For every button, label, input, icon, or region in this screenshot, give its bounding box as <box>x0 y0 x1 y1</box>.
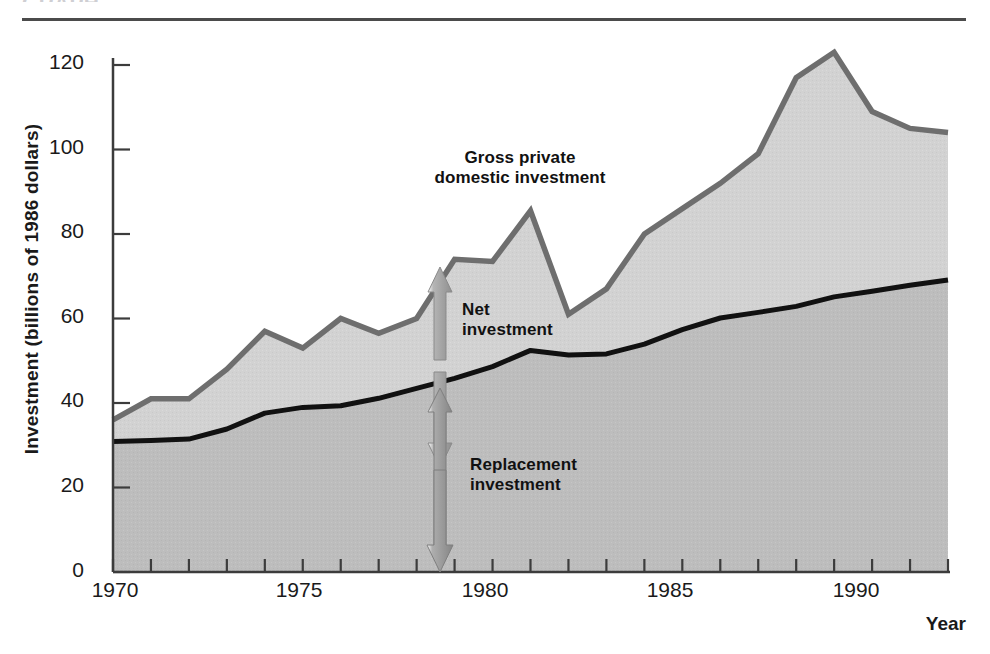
chart-figure: GRAPH Investment (billions of 1986 dolla… <box>0 0 990 654</box>
annotation-repl-line2: investment <box>470 475 561 494</box>
annotation-net-investment: Net investment <box>462 300 592 340</box>
annotation-gross-line1: Gross private <box>465 148 576 167</box>
annotation-net-line1: Net <box>462 300 490 319</box>
annotation-repl-line1: Replacement <box>470 455 577 474</box>
annotation-replacement-investment: Replacement investment <box>470 455 640 495</box>
annotation-gross-investment: Gross private domestic investment <box>395 148 645 188</box>
annotation-gross-line2: domestic investment <box>434 168 605 187</box>
annotation-net-line2: investment <box>462 320 553 339</box>
